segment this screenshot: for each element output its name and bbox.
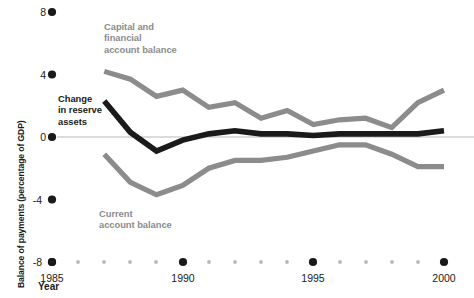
series-annotation-current-account-balance: Current account balance — [99, 208, 172, 231]
y-tick-label-neg4: -4 — [20, 194, 42, 206]
y-tick-label-0: 0 — [24, 131, 46, 143]
y-tick-label-neg8: -8 — [20, 256, 42, 268]
x-axis-title: Year — [38, 281, 59, 292]
x-tick-label-1995: 1995 — [291, 272, 335, 284]
x-tick-label-2000: 2000 — [422, 272, 466, 284]
y-tick-label-4: 4 — [24, 69, 46, 81]
x-tick-label-1990: 1990 — [161, 272, 205, 284]
series-annotation-capital-financial-account-balance: Capital and financial account balance — [104, 21, 177, 55]
series-line-capital-financial-account-balance — [104, 71, 444, 127]
y-axis-tick-dots — [48, 8, 56, 266]
y-tick-label-8: 8 — [24, 6, 46, 18]
plot-area — [0, 0, 474, 298]
y-axis-title: Balance of payments (percentage of GDP) — [16, 0, 32, 288]
series-annotation-change-in-reserve-assets: Change in reserve assets — [58, 93, 102, 127]
x-axis-major-tick-dots — [48, 258, 448, 266]
x-axis-minor-tick-dots — [76, 260, 420, 264]
balance-of-payments-chart: Balance of payments (percentage of GDP) … — [0, 0, 474, 298]
